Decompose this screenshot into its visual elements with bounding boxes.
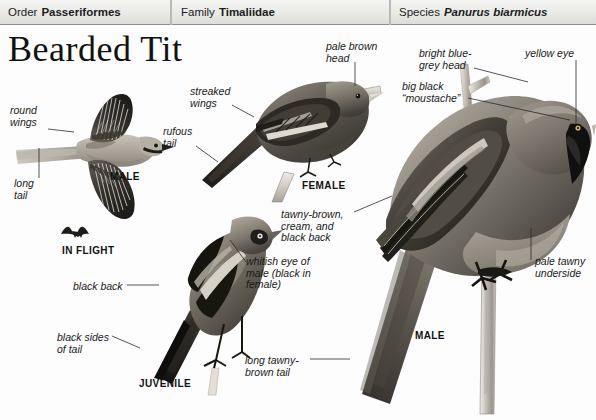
leader-whitish-eye <box>230 240 248 264</box>
annotation-tawny-brown-back: tawny-brown, cream, and black back <box>281 209 343 244</box>
taxonomy-value-order: Passeriformes <box>41 6 120 18</box>
taxonomy-cell-family: Family Timaliidae <box>181 0 275 23</box>
leader-big-black-moustache <box>468 96 572 122</box>
taxonomy-label-order: Order <box>8 6 37 18</box>
leader-black-back <box>127 282 161 288</box>
annotation-streaked-wings: streaked wings <box>190 86 230 109</box>
annotation-round-wings: round wings <box>10 105 37 128</box>
annotation-yellow-eye: yellow eye <box>525 48 574 60</box>
taxonomy-label-family: Family <box>181 6 215 18</box>
taxonomy-value-family: Timaliidae <box>219 6 275 18</box>
leader-yellow-eye <box>573 60 579 126</box>
annotation-black-sides-of-tail: black sides of tail <box>57 332 109 355</box>
leader-rufous-tail <box>196 146 220 164</box>
leader-pale-brown-head <box>352 62 358 86</box>
leader-streaked-wings <box>232 105 256 119</box>
leader-pale-tawny-underside <box>528 228 534 262</box>
annotation-rufous-tail: rufous tail <box>163 126 192 149</box>
leader-round-wings <box>48 125 76 133</box>
leader-bright-blue-grey-head <box>474 66 530 84</box>
caption-in-flight: IN FLIGHT <box>62 245 114 256</box>
caption-juvenile: JUVENILE <box>139 378 191 389</box>
annotation-long-tail: long tail <box>14 178 34 201</box>
leader-long-tail <box>36 148 42 178</box>
annotation-pale-brown-head: pale brown head <box>326 41 377 64</box>
annotation-bright-blue-grey-head: bright blue- grey head <box>419 48 472 71</box>
caption-male-in-flight: MALE <box>110 171 140 182</box>
taxonomy-cell-order: Order Passeriformes <box>8 0 121 23</box>
annotation-whitish-eye: whitish eye of male (black in female) <box>246 256 311 291</box>
leader-black-sides-of-tail <box>112 336 142 350</box>
annotation-long-tawny-brown-tail: long tawny- brown tail <box>245 355 299 378</box>
taxonomy-label-species: Species <box>399 6 440 18</box>
annotation-big-black-moustache: big black “moustache” <box>402 81 460 104</box>
leader-tawny-brown-back <box>354 196 394 214</box>
header-divider-1 <box>170 0 172 25</box>
annotation-pale-tawny-underside: pale tawny underside <box>535 256 585 279</box>
taxonomy-cell-species: Species Panurus biarmicus <box>399 0 547 23</box>
header-divider-2 <box>389 0 391 25</box>
annotation-black-back: black back <box>73 281 123 293</box>
page-title: Bearded Tit <box>8 28 183 70</box>
caption-female: FEMALE <box>302 180 346 191</box>
leader-long-tawny-brown-tail <box>310 356 352 362</box>
illustration-flight-silhouette <box>61 224 95 240</box>
caption-male: MALE <box>415 330 445 341</box>
taxonomy-header: Order Passeriformes Family Timaliidae Sp… <box>0 0 596 25</box>
taxonomy-value-species: Panurus biarmicus <box>444 6 548 18</box>
field-guide-page: Order Passeriformes Family Timaliidae Sp… <box>0 0 596 420</box>
